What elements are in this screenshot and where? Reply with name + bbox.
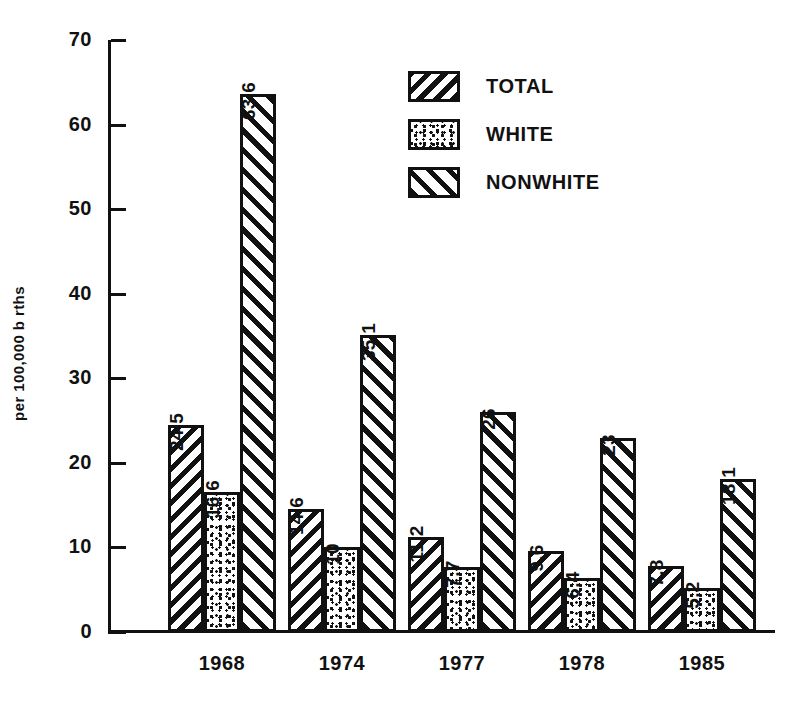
y-axis-tick-label: 0 — [32, 621, 92, 641]
y-axis-tick-label: 50 — [32, 198, 92, 218]
bar-total-1978[interactable]: 9.6 — [528, 551, 564, 632]
bar-nonwhite-1985[interactable]: 18.1 — [720, 479, 756, 632]
bar-white-1985[interactable]: 5.2 — [684, 588, 720, 632]
bar-white-1978[interactable]: 6.4 — [564, 578, 600, 632]
legend-label: TOTAL — [486, 75, 554, 98]
bar-white-1977[interactable]: 7.7 — [444, 567, 480, 632]
bar-value-label: 11.2 — [407, 526, 426, 563]
bar-white-1974[interactable]: 10 — [324, 547, 360, 632]
bar-nonwhite-1978[interactable]: 23 — [600, 438, 636, 633]
bar-value-label: 7.8 — [647, 559, 666, 586]
x-axis-label-1968: 1968 — [162, 652, 282, 675]
y-axis-tick-label: 70 — [32, 29, 92, 49]
bar-value-label: 16.6 — [203, 480, 222, 518]
legend-item-total[interactable]: TOTAL — [408, 62, 600, 110]
bar-group: 14.61035.1 — [288, 40, 396, 632]
bar-value-label: 24.5 — [167, 413, 186, 451]
bar-value-label: 14.6 — [287, 496, 306, 534]
legend-item-white[interactable]: WHITE — [408, 110, 600, 158]
y-axis-tick-label: 60 — [32, 114, 92, 134]
bar-total-1985[interactable]: 7.8 — [648, 566, 684, 632]
bar-nonwhite-1974[interactable]: 35.1 — [360, 335, 396, 632]
x-axis-label-1985: 1985 — [642, 652, 762, 675]
bar-total-1974[interactable]: 14.6 — [288, 509, 324, 632]
bar-value-label: 10 — [323, 544, 342, 566]
y-axis-tick-label: 20 — [32, 452, 92, 472]
y-axis-tick-label: 40 — [32, 283, 92, 303]
y-axis-title: per 100,000 b rths — [10, 224, 27, 484]
legend-swatch-nonwhite-icon — [408, 167, 460, 198]
bar-total-1977[interactable]: 11.2 — [408, 537, 444, 632]
y-axis-tick-label: 30 — [32, 367, 92, 387]
bar-value-label: 26 — [479, 408, 498, 430]
bar-value-label: 7.7 — [443, 560, 462, 587]
y-axis-tick-label: 10 — [32, 536, 92, 556]
bar-value-label: 18.1 — [719, 467, 738, 505]
x-axis-label-1974: 1974 — [282, 652, 402, 675]
bar-total-1968[interactable]: 24.5 — [168, 425, 204, 632]
legend-label: WHITE — [486, 123, 553, 146]
bar-value-label: 35.1 — [359, 323, 378, 361]
bar-nonwhite-1968[interactable]: 63.6 — [240, 94, 276, 632]
legend-item-nonwhite[interactable]: NONWHITE — [408, 158, 600, 206]
bar-group: 24.516.663.6 — [168, 40, 276, 632]
bar-value-label: 9.6 — [527, 544, 546, 571]
bar-white-1968[interactable]: 16.6 — [204, 492, 240, 632]
bar-value-label: 23 — [599, 434, 618, 456]
bar-nonwhite-1977[interactable]: 26 — [480, 412, 516, 632]
legend-swatch-white-icon — [408, 119, 460, 150]
bar-value-label: 63.6 — [239, 82, 258, 120]
bar-group: 7.85.218.1 — [648, 40, 756, 632]
bar-value-label: 6.4 — [563, 571, 582, 598]
chart-legend: TOTALWHITENONWHITE — [408, 62, 600, 206]
chart-container: per 100,000 b rths 706050403020100 24.51… — [0, 0, 809, 707]
x-axis-label-1977: 1977 — [402, 652, 522, 675]
bar-value-label: 5.2 — [683, 581, 702, 608]
legend-label: NONWHITE — [486, 171, 600, 194]
legend-swatch-total-icon — [408, 71, 460, 102]
x-axis-label-1978: 1978 — [522, 652, 642, 675]
